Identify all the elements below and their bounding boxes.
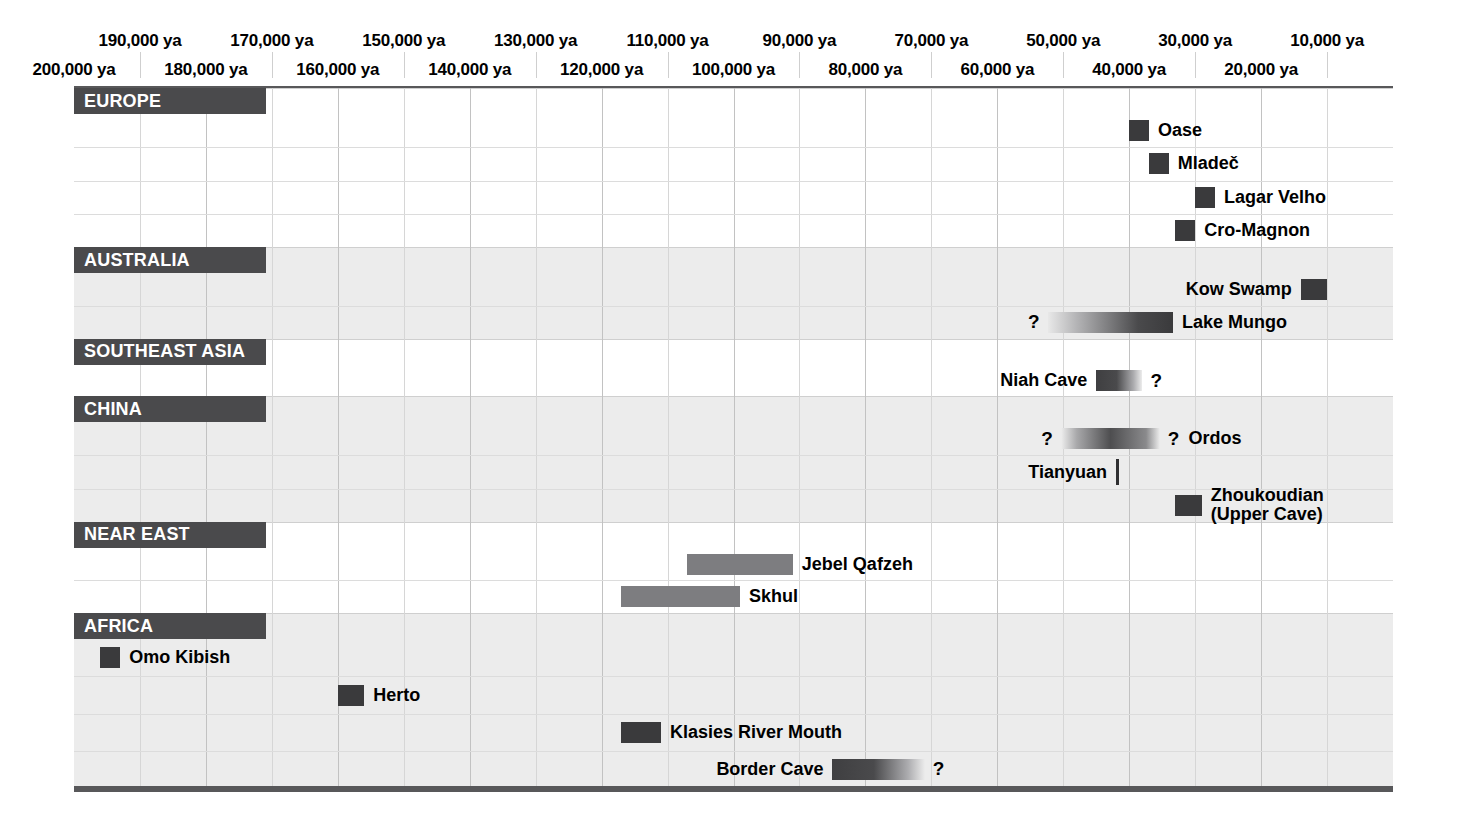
site-label: Cro-Magnon bbox=[1204, 221, 1310, 240]
site-label: Kow Swamp bbox=[1186, 280, 1292, 299]
timeline-bar[interactable] bbox=[338, 685, 364, 706]
time-axis: 190,000 ya170,000 ya150,000 ya130,000 ya… bbox=[0, 0, 1465, 88]
timeline-entry[interactable]: ??Ordos bbox=[1041, 424, 1241, 454]
axis-tick-label-top: 130,000 ya bbox=[494, 31, 577, 51]
timeline-bar[interactable] bbox=[100, 647, 120, 668]
axis-tick-label-top: 30,000 ya bbox=[1158, 31, 1232, 51]
timeline-entry[interactable]: Skhul bbox=[621, 582, 798, 612]
axis-tick-label-top: 150,000 ya bbox=[362, 31, 445, 51]
grid-line bbox=[668, 88, 669, 788]
row-separator bbox=[74, 751, 1393, 752]
region-label-text: AUSTRALIA bbox=[84, 250, 190, 271]
timeline-entry[interactable]: Border Cave? bbox=[74, 754, 1393, 784]
axis-label-separator bbox=[668, 52, 669, 78]
timeline-bar[interactable] bbox=[1195, 187, 1215, 208]
axis-label-separator bbox=[931, 52, 932, 78]
uncertain-marker-left: ? bbox=[1028, 311, 1040, 333]
timeline-bar[interactable] bbox=[832, 759, 924, 780]
axis-bottom-rule bbox=[74, 786, 1393, 792]
axis-tick-label-top: 10,000 ya bbox=[1290, 31, 1364, 51]
timeline-bar[interactable] bbox=[687, 554, 793, 575]
grid-line bbox=[140, 88, 141, 788]
site-label: Zhoukoudian(Upper Cave) bbox=[1211, 486, 1324, 525]
timeline-bar[interactable] bbox=[621, 722, 661, 743]
grid-line bbox=[206, 88, 207, 788]
grid-line bbox=[602, 88, 603, 788]
timeline-entry[interactable]: Herto bbox=[338, 680, 420, 710]
timeline-bar[interactable] bbox=[1116, 459, 1119, 485]
timeline-bar[interactable] bbox=[1301, 279, 1327, 300]
axis-tick-label-bottom: 120,000 ya bbox=[560, 60, 643, 80]
axis-tick-label-bottom: 200,000 ya bbox=[32, 60, 115, 80]
timeline-bar[interactable] bbox=[1048, 312, 1173, 333]
timeline-entry[interactable]: Mladeč bbox=[1149, 149, 1239, 179]
timeline-entry[interactable]: Lagar Velho bbox=[1195, 182, 1326, 212]
site-label-line2: (Upper Cave) bbox=[1211, 505, 1324, 524]
timeline-entry[interactable]: Zhoukoudian(Upper Cave) bbox=[1175, 490, 1323, 520]
axis-label-separator bbox=[799, 52, 800, 78]
axis-tick-label-bottom: 100,000 ya bbox=[692, 60, 775, 80]
axis-tick-label-top: 190,000 ya bbox=[98, 31, 181, 51]
site-label: Jebel Qafzeh bbox=[802, 555, 913, 574]
site-label-line1: Zhoukoudian bbox=[1211, 486, 1324, 505]
timeline-bar[interactable] bbox=[1061, 428, 1160, 449]
region-label-southeast-asia: SOUTHEAST ASIA bbox=[74, 339, 266, 365]
region-label-text: NEAR EAST bbox=[84, 524, 190, 545]
timeline-bar[interactable] bbox=[1149, 153, 1169, 174]
site-label: Klasies River Mouth bbox=[670, 723, 842, 742]
axis-label-separator bbox=[1195, 52, 1196, 78]
grid-line bbox=[997, 88, 998, 788]
timeline-bar[interactable] bbox=[621, 586, 740, 607]
timeline-bar[interactable] bbox=[1175, 220, 1195, 241]
region-label-text: EUROPE bbox=[84, 91, 161, 112]
grid-line bbox=[865, 88, 866, 788]
axis-tick-label-top: 70,000 ya bbox=[894, 31, 968, 51]
region-label-australia: AUSTRALIA bbox=[74, 247, 266, 273]
timeline-entry[interactable]: ?Lake Mungo bbox=[1028, 307, 1287, 337]
axis-tick-label-top: 170,000 ya bbox=[230, 31, 313, 51]
axis-tick-label-bottom: 80,000 ya bbox=[828, 60, 902, 80]
timeline-entry[interactable]: Oase bbox=[1129, 116, 1202, 146]
axis-label-separator bbox=[536, 52, 537, 78]
axis-label-separator bbox=[1063, 52, 1064, 78]
grid-line bbox=[536, 88, 537, 788]
plot-area: EUROPEOaseMladečLagar VelhoCro-MagnonAUS… bbox=[74, 88, 1393, 788]
site-label: Lagar Velho bbox=[1224, 188, 1326, 207]
timeline-entry[interactable]: Tianyuan bbox=[74, 457, 1393, 487]
region-label-china: CHINA bbox=[74, 396, 266, 422]
uncertain-marker-left: ? bbox=[1041, 428, 1053, 450]
region-label-europe: EUROPE bbox=[74, 88, 266, 114]
timeline-entry[interactable]: Kow Swamp bbox=[74, 275, 1393, 305]
timeline-bar[interactable] bbox=[1096, 370, 1142, 391]
timeline-entry[interactable]: Klasies River Mouth bbox=[621, 717, 842, 747]
region-label-africa: AFRICA bbox=[74, 613, 266, 639]
region-label-text: SOUTHEAST ASIA bbox=[84, 341, 245, 362]
site-label: Ordos bbox=[1188, 429, 1241, 448]
axis-tick-label-top: 90,000 ya bbox=[763, 31, 837, 51]
timeline-entry[interactable]: Cro-Magnon bbox=[1175, 215, 1310, 245]
grid-line bbox=[734, 88, 735, 788]
grid-line bbox=[931, 88, 932, 788]
site-label: Mladeč bbox=[1178, 154, 1239, 173]
grid-line bbox=[272, 88, 273, 788]
site-label: Skhul bbox=[749, 587, 798, 606]
timeline-entry[interactable]: Omo Kibish bbox=[100, 643, 230, 673]
site-label: Herto bbox=[373, 686, 420, 705]
site-label: Omo Kibish bbox=[129, 648, 230, 667]
timeline-entry[interactable]: Niah Cave? bbox=[74, 366, 1393, 396]
axis-tick-label-bottom: 160,000 ya bbox=[296, 60, 379, 80]
axis-tick-label-bottom: 20,000 ya bbox=[1224, 60, 1298, 80]
timeline-bar[interactable] bbox=[1129, 120, 1149, 141]
uncertain-marker-right: ? bbox=[933, 758, 945, 780]
site-label: Border Cave bbox=[716, 760, 823, 779]
region-label-text: CHINA bbox=[84, 399, 142, 420]
timeline-bar[interactable] bbox=[1175, 495, 1201, 516]
timeline-entry[interactable]: Jebel Qafzeh bbox=[687, 549, 913, 579]
axis-tick-label-top: 110,000 ya bbox=[626, 31, 708, 51]
axis-label-separator bbox=[1327, 52, 1328, 78]
site-label: Lake Mungo bbox=[1182, 313, 1287, 332]
grid-line bbox=[470, 88, 471, 788]
site-label: Oase bbox=[1158, 121, 1202, 140]
region-label-near-east: NEAR EAST bbox=[74, 522, 266, 548]
axis-tick-label-bottom: 180,000 ya bbox=[164, 60, 247, 80]
